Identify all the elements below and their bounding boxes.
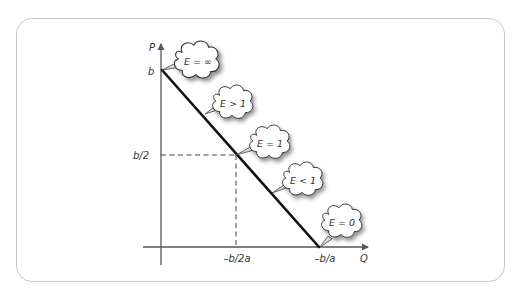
demand-elasticity-diagram: P Q b b/2 –b/2a –b/a E = ∞ E > 1 E = 1 E…	[0, 0, 521, 291]
elasticity-label-inelastic: E < 1	[290, 175, 316, 186]
tick-label-neg-b-over-2a: –b/2a	[223, 253, 250, 264]
elasticity-label-zero: E = 0	[329, 217, 355, 228]
elasticity-label-infinite: E = ∞	[184, 56, 212, 67]
tick-label-b: b	[148, 66, 154, 77]
tick-label-neg-b-over-a: –b/a	[315, 253, 336, 264]
elasticity-label-elastic: E > 1	[220, 98, 246, 109]
elasticity-label-unit: E = 1	[257, 138, 283, 149]
y-axis-label: P	[149, 42, 156, 53]
x-axis-label: Q	[360, 253, 368, 264]
tick-label-b-half: b/2	[133, 150, 149, 161]
